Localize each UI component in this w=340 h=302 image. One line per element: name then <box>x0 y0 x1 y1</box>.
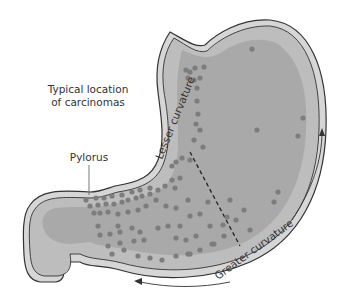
label-pylorus: Pylorus <box>70 151 108 163</box>
arrowhead-left-icon <box>134 278 142 285</box>
stomach-diagram: Typical location of carcinomas Pylorus L… <box>0 0 340 302</box>
label-typical-line1: Typical location <box>47 83 129 95</box>
label-typical-line2: of carcinomas <box>51 96 125 108</box>
greater-curvature-arrow-left <box>140 282 230 287</box>
